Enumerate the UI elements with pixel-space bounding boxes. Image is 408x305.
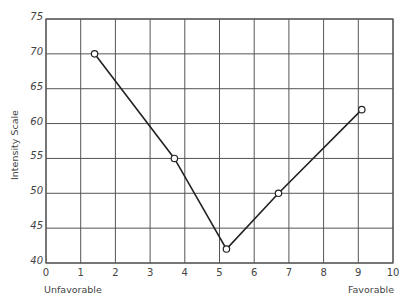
data-point-marker bbox=[359, 106, 365, 112]
x-tick-label: 7 bbox=[286, 267, 292, 278]
y-axis-label: Intensity Scale bbox=[9, 110, 20, 180]
y-tick-label: 55 bbox=[30, 150, 43, 161]
x-tick-label: 5 bbox=[216, 267, 222, 278]
y-tick-label: 75 bbox=[30, 11, 43, 22]
x-tick-label: 6 bbox=[251, 267, 257, 278]
y-tick-label: 70 bbox=[30, 46, 43, 57]
y-axis-ticks: 4045505560657075 bbox=[30, 11, 43, 266]
y-tick-label: 65 bbox=[30, 81, 43, 92]
x-tick-label: 2 bbox=[112, 267, 118, 278]
x-tick-label: 0 bbox=[43, 267, 49, 278]
data-line bbox=[95, 54, 362, 249]
intensity-chart: 4045505560657075 012345678910 Intensity … bbox=[0, 0, 408, 305]
unfavorable-label: Unfavorable bbox=[44, 284, 102, 295]
x-tick-label: 9 bbox=[355, 267, 361, 278]
x-axis-ticks: 012345678910 bbox=[43, 267, 400, 278]
x-tick-label: 1 bbox=[78, 267, 84, 278]
x-tick-label: 3 bbox=[147, 267, 153, 278]
data-point-marker bbox=[275, 190, 281, 196]
y-tick-label: 45 bbox=[30, 220, 43, 231]
x-tick-label: 10 bbox=[387, 267, 400, 278]
favorable-label: Favorable bbox=[348, 284, 394, 295]
data-point-marker bbox=[91, 51, 97, 57]
grid-lines bbox=[46, 19, 393, 263]
data-point-marker bbox=[223, 246, 229, 252]
x-tick-label: 8 bbox=[320, 267, 326, 278]
y-tick-label: 40 bbox=[30, 255, 43, 266]
y-tick-label: 60 bbox=[30, 116, 43, 127]
y-tick-label: 50 bbox=[30, 185, 43, 196]
x-tick-label: 4 bbox=[182, 267, 188, 278]
data-point-marker bbox=[171, 155, 177, 161]
